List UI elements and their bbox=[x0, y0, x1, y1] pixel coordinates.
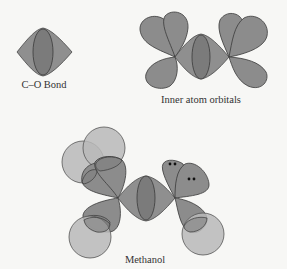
inner-bond-ellipse bbox=[192, 35, 210, 79]
bond-ellipse bbox=[33, 29, 53, 75]
inner-orbitals-label: Inner atom orbitals bbox=[161, 94, 241, 105]
methanol-label: Methanol bbox=[125, 254, 165, 265]
methanol-bond-ellipse bbox=[137, 176, 155, 220]
co-bond-diagram bbox=[17, 28, 72, 76]
inner-orbitals-diagram bbox=[140, 12, 267, 88]
right-lower-lobe bbox=[229, 57, 267, 88]
co-bond-label: C–O Bond bbox=[21, 79, 66, 90]
methanol-diagram bbox=[62, 127, 224, 258]
left-lower-lobe bbox=[146, 57, 178, 88]
orbital-diagram: .lobe { fill: #8c8c8c; stroke: #3a3a3a; … bbox=[0, 0, 287, 269]
